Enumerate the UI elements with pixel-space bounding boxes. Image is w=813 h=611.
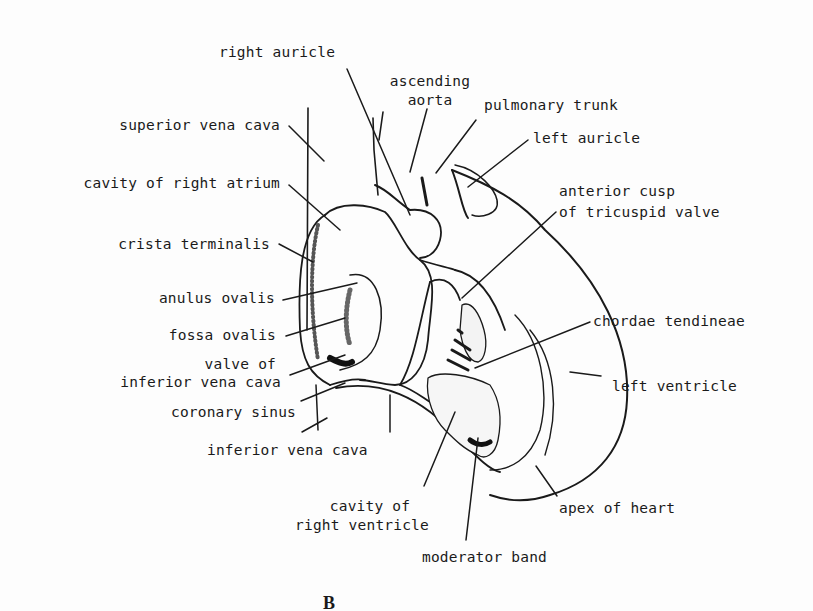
label-cavity-right-ventricle-line1: cavity of: [290, 497, 450, 516]
ventricle-inner-walls: [490, 315, 553, 470]
inferior-vena-cava-outline: [316, 385, 390, 432]
right-auricle-outline: [410, 210, 441, 258]
label-fossa-ovalis: fossa ovalis: [60, 326, 276, 345]
label-right-auricle: right auricle: [219, 43, 335, 62]
label-superior-vena-cava: superior vena cava: [40, 116, 280, 135]
label-left-ventricle: left ventricle: [612, 377, 737, 396]
label-moderator-band: moderator band: [422, 548, 547, 567]
label-crista-terminalis: crista terminalis: [40, 235, 270, 254]
label-anulus-ovalis: anulus ovalis: [60, 289, 275, 308]
label-coronary-sinus: coronary sinus: [60, 403, 296, 422]
label-valve-ivc-line2: inferior vena cava: [60, 373, 281, 392]
left-auricle-outline: [455, 165, 497, 216]
label-apex-of-heart: apex of heart: [559, 499, 675, 518]
heart-diagram-figure: right auricle ascending aorta pulmonary …: [0, 0, 813, 611]
label-cavity-right-ventricle-line2: right ventricle: [282, 516, 442, 535]
panel-letter: B: [323, 593, 335, 611]
label-ascending-aorta-line2: aorta: [380, 91, 480, 110]
label-valve-ivc-line1: valve of: [60, 355, 276, 374]
anterior-cusp-shape: [460, 304, 486, 362]
label-anterior-cusp-line2: of tricuspid valve: [559, 203, 720, 222]
label-pulmonary-trunk: pulmonary trunk: [484, 96, 618, 115]
label-chordae-tendineae: chordae tendineae: [593, 312, 745, 331]
label-anterior-cusp-line1: anterior cusp: [559, 182, 675, 201]
label-inferior-vena-cava: inferior vena cava: [207, 441, 368, 460]
superior-vena-cava-outline: [307, 108, 383, 330]
label-cavity-right-atrium: cavity of right atrium: [20, 174, 280, 193]
label-ascending-aorta-line1: ascending: [380, 72, 480, 91]
label-left-auricle: left auricle: [533, 129, 640, 148]
fossa-stipple: [346, 290, 350, 345]
